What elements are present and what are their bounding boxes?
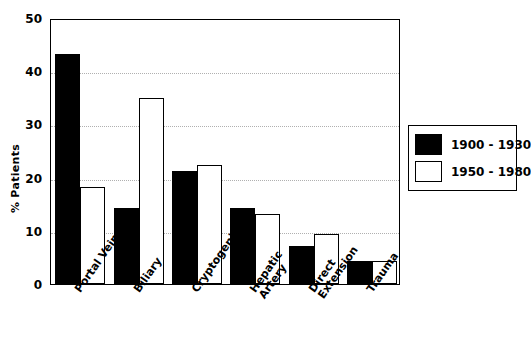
bar xyxy=(172,171,197,284)
y-tick-label: 50 xyxy=(16,13,42,25)
bar-group xyxy=(289,20,339,284)
legend-swatch-series-1 xyxy=(415,161,442,182)
legend-swatch-series-0 xyxy=(415,134,442,155)
bar-group xyxy=(172,20,222,284)
bar xyxy=(55,54,80,284)
bar-group xyxy=(347,20,397,284)
y-tick-label: 30 xyxy=(16,119,42,131)
legend-label-series-1: 1950 - 1980 xyxy=(451,165,531,179)
legend-item: 1900 - 1930 xyxy=(415,131,516,158)
x-axis-labels: Portal VeinBiliaryCryptogenicHepaticArte… xyxy=(0,288,520,354)
bar-group xyxy=(230,20,280,284)
bar xyxy=(139,98,164,284)
legend-item: 1950 - 1980 xyxy=(415,158,516,185)
legend-label-series-0: 1900 - 1930 xyxy=(451,138,531,152)
bar-group xyxy=(55,20,105,284)
bar xyxy=(114,208,139,284)
legend: 1900 - 1930 1950 - 1980 xyxy=(408,125,517,191)
y-tick-label: 10 xyxy=(16,226,42,238)
y-tick-label: 40 xyxy=(16,66,42,78)
y-tick-label: 20 xyxy=(16,173,42,185)
bar xyxy=(289,246,314,284)
bar-group xyxy=(114,20,164,284)
